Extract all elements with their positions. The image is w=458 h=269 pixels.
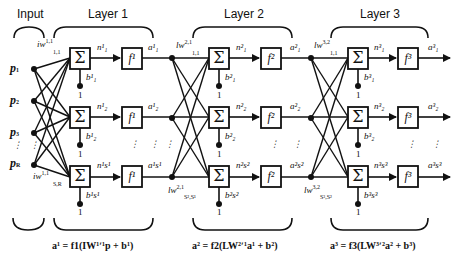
equation-layer-2: a² = f2(LW²ʹ¹a¹ + b²) — [192, 240, 278, 251]
bias-label: b³₁ — [364, 73, 374, 82]
output-label: a²₂ — [290, 102, 300, 111]
net-input-label: n³₁ — [374, 43, 384, 52]
lw3-top-label: lw3,21,1 — [314, 39, 338, 50]
ellipsis: ⋮ — [270, 140, 279, 149]
summation-icon: Σ — [348, 48, 368, 68]
summation-icon: Σ — [209, 48, 229, 68]
bias-label: b²s² — [225, 191, 238, 200]
bias-one: 1 — [78, 149, 83, 159]
transfer-function-f1: f¹ — [122, 166, 142, 186]
output-label: a³s³ — [428, 161, 441, 170]
ellipsis: ⋮ — [293, 140, 302, 149]
net-input-label: n²s² — [236, 161, 249, 170]
layer-1-header: Layer 1 — [88, 7, 128, 21]
equation-layer-1: a¹ = f1(IW¹ʹ¹p + b¹) — [52, 240, 133, 251]
lw3-bottom-label: lw3,2S³,S² — [304, 184, 332, 195]
bias-one: 1 — [356, 149, 361, 159]
net-input-label: n¹s¹ — [97, 161, 110, 170]
transfer-function-f2: f² — [261, 48, 281, 68]
net-input-label: n¹₁ — [97, 43, 107, 52]
transfer-function-f2: f² — [261, 107, 281, 127]
summation-icon: Σ — [209, 107, 229, 127]
transfer-function-f2: f² — [261, 166, 281, 186]
transfer-function-f1: f¹ — [122, 107, 142, 127]
summation-icon: Σ — [348, 166, 368, 186]
lw2-bottom-label: lw2,1S²,S¹ — [168, 184, 196, 195]
input-nodes — [31, 66, 37, 168]
bias-one: 1 — [356, 207, 361, 217]
layer-3-header: Layer 3 — [360, 7, 400, 21]
iw-bottom-label: iw1,1S,R — [33, 170, 58, 181]
bias-label: b²₁ — [225, 73, 235, 82]
bias-one: 1 — [78, 90, 83, 100]
input-weight-connections — [34, 58, 70, 177]
net-input-label: n²₂ — [236, 102, 246, 111]
transfer-function-f1: f¹ — [122, 48, 142, 68]
net-input-label: n²₁ — [236, 43, 246, 52]
input-ellipsis: ⋮ — [13, 141, 22, 150]
output-label: a¹₂ — [148, 102, 158, 111]
summation-icon: Σ — [348, 107, 368, 127]
bias-one: 1 — [217, 90, 222, 100]
bias-label: b³s³ — [364, 191, 377, 200]
three-layer-network-diagram: Input Layer 1 Layer 2 Layer 3 p1 p2 p3 p… — [0, 0, 458, 269]
bias-label: b¹₁ — [86, 73, 96, 82]
bias-one: 1 — [78, 207, 83, 217]
bias-one: 1 — [217, 149, 222, 159]
output-label: a¹s¹ — [148, 161, 161, 170]
output-label: a²s² — [290, 161, 303, 170]
input-p2: p2 — [10, 94, 19, 106]
ellipsis: ⋮ — [165, 140, 174, 149]
ellipsis: ⋮ — [407, 140, 416, 149]
input-pR: pR — [10, 157, 20, 169]
bias-label: b³₂ — [364, 132, 374, 141]
bias-label: b²₂ — [225, 132, 235, 141]
net-input-label: n³₂ — [374, 102, 384, 111]
bias-one: 1 — [217, 207, 222, 217]
input-header: Input — [17, 7, 44, 21]
input-p1: p1 — [10, 62, 19, 74]
bias-label: b¹₂ — [86, 132, 96, 141]
output-label: a³₁ — [428, 43, 438, 52]
top-braces — [14, 27, 428, 38]
output-label: a²₁ — [290, 43, 300, 52]
summation-icon: Σ — [70, 166, 90, 186]
ellipsis: ⋮ — [150, 140, 159, 149]
node-ellipsis: ⋮ — [30, 141, 39, 150]
net-input-label: n³s³ — [374, 161, 387, 170]
iw-top-label: iw1,11,1 — [37, 38, 61, 49]
input-p3: p3 — [10, 126, 19, 138]
ellipsis: ⋮ — [130, 140, 139, 149]
ellipsis: ⋮ — [432, 140, 441, 149]
summation-icon: Σ — [70, 107, 90, 127]
output-label: a³₂ — [428, 102, 438, 111]
equation-layer-3: a³ = f3(LW³ʹ²a² + b³) — [330, 240, 416, 251]
bottom-braces — [13, 218, 428, 230]
output-label: a¹₁ — [148, 43, 158, 52]
bias-one: 1 — [356, 90, 361, 100]
summation-icon: Σ — [70, 48, 90, 68]
summation-icon: Σ — [209, 166, 229, 186]
bias-label: b¹s¹ — [86, 191, 99, 200]
transfer-function-f3: f³ — [398, 107, 418, 127]
transfer-function-f3: f³ — [398, 166, 418, 186]
net-input-label: n¹₂ — [97, 102, 107, 111]
lw2-top-label: lw2,11,1 — [176, 39, 200, 50]
layer-2-header: Layer 2 — [224, 7, 264, 21]
transfer-function-f3: f³ — [398, 48, 418, 68]
